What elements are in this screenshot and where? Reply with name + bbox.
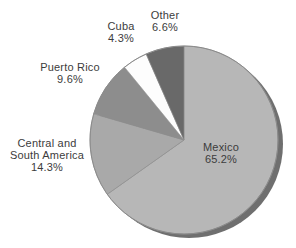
pie-chart-figure: Other 6.6% Cuba 4.3% Puerto Rico 9.6% Ce… [0, 0, 296, 248]
slice-label-central-south-america: Central and South America 14.3% [10, 137, 84, 173]
slice-label-mexico: Mexico 65.2% [203, 141, 239, 165]
slice-label-other: Other 6.6% [151, 9, 180, 33]
slice-label-puerto-rico: Puerto Rico 9.6% [40, 61, 100, 85]
slice-label-cuba: Cuba 4.3% [107, 20, 134, 44]
pie-chart [0, 0, 296, 248]
